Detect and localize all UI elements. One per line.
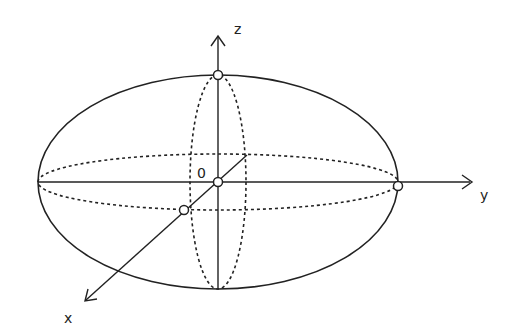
point-y-end — [394, 182, 403, 191]
x-axis-label: x — [64, 311, 72, 325]
x-axis — [86, 155, 247, 300]
point-z-top — [214, 71, 223, 80]
ellipsoid-diagram: z y x 0 — [0, 0, 512, 336]
z-axis-label: z — [234, 22, 241, 36]
diagram-drawing — [0, 0, 512, 336]
y-axis-label: y — [480, 188, 488, 202]
point-origin — [214, 178, 223, 187]
origin-label: 0 — [197, 166, 206, 180]
point-x-front — [180, 206, 189, 215]
